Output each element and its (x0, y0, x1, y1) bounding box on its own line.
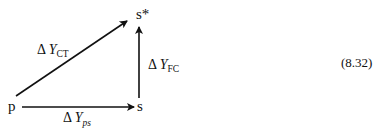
label-delta-y-fc: Δ YFC (148, 58, 179, 72)
label-sub: FC (168, 64, 180, 74)
delta-symbol: Δ (148, 57, 156, 72)
node-p: p (8, 99, 16, 114)
label-main: Y (75, 110, 83, 125)
label-sub: CT (57, 49, 69, 59)
diagram-arrows (0, 0, 378, 134)
label-main: Y (160, 57, 168, 72)
label-main: Y (49, 42, 57, 57)
label-delta-y-ct: Δ YCT (37, 43, 69, 57)
node-s: s (137, 99, 143, 114)
label-delta-y-ps: Δ Yps (63, 111, 91, 125)
equation-number: (8.32) (341, 56, 372, 69)
delta-symbol: Δ (37, 42, 45, 57)
node-s-star: s* (136, 7, 149, 22)
arrow-p-to-s-star (16, 21, 127, 96)
label-sub: ps (83, 118, 91, 128)
delta-symbol: Δ (63, 110, 71, 125)
